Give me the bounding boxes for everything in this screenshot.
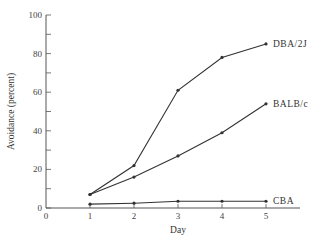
data-point — [264, 200, 267, 203]
y-tick-label: 80 — [33, 49, 43, 59]
data-point — [220, 56, 223, 59]
series-lines: DBA/2JBALB/cCBA — [88, 39, 308, 206]
data-point — [132, 202, 135, 205]
x-tick-label: 5 — [264, 211, 269, 221]
y-axis-title: Avoidance (percent) — [6, 73, 17, 150]
data-point — [176, 200, 179, 203]
data-point — [132, 176, 135, 179]
chart: 020406080100012345DayAvoidance (percent)… — [0, 0, 320, 246]
x-axis-title: Day — [170, 225, 186, 235]
data-point — [220, 200, 223, 203]
y-tick-label: 20 — [33, 164, 43, 174]
data-point — [176, 89, 179, 92]
data-point — [176, 154, 179, 157]
data-point — [220, 131, 223, 134]
series-line-balb-c — [90, 104, 266, 195]
y-tick-label: 40 — [33, 126, 43, 136]
x-tick-label: 1 — [88, 211, 93, 221]
x-tick-label: 4 — [220, 211, 225, 221]
series-label: DBA/2J — [273, 39, 307, 49]
x-tick-label: 3 — [176, 211, 181, 221]
data-point — [132, 164, 135, 167]
x-tick-label: 0 — [44, 211, 49, 221]
y-tick-label: 60 — [33, 87, 43, 97]
x-tick-label: 2 — [132, 211, 137, 221]
data-point — [88, 203, 91, 206]
y-tick-label: 100 — [29, 10, 43, 20]
data-point — [264, 102, 267, 105]
series-line-dba-2j — [90, 44, 266, 195]
series-label: CBA — [273, 196, 294, 206]
y-tick-label: 0 — [38, 203, 43, 213]
series-label: BALB/c — [273, 99, 308, 109]
data-point — [264, 42, 267, 45]
data-point — [88, 193, 91, 196]
